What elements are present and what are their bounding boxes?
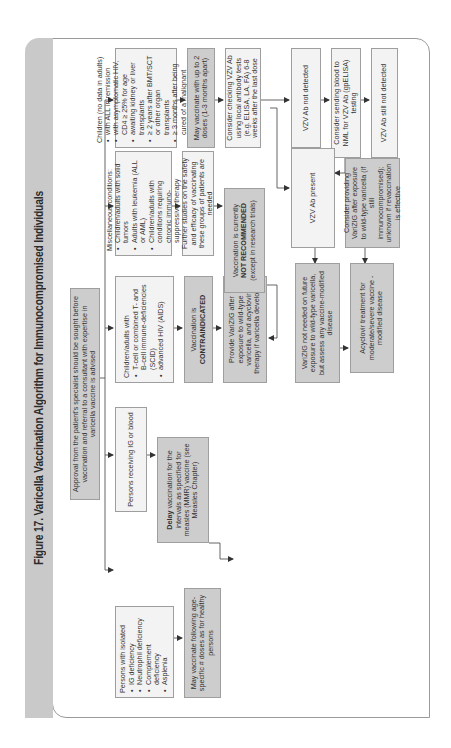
further-studies-text: Further studies on the safety and effica… xyxy=(181,156,215,251)
isolated-deficiency-box: Persons with isolated IG deficiency Neut… xyxy=(115,606,174,698)
bullet-after-bmt: ≥ 2 years after BMT/SCT or other organ t… xyxy=(146,53,171,135)
bullet-adult-leukemia: Adults with leukemia (ALL or AML) xyxy=(131,156,148,243)
consider-varizig-text: Consider providing VariZIG after exposur… xyxy=(343,163,402,243)
receiving-ig-blood-box: Persons receiving IG or blood xyxy=(115,407,147,512)
further-studies-box: Further studies on the safety and effica… xyxy=(182,151,214,256)
vzv-not-detected-box: VZV Ab not detected xyxy=(291,48,321,148)
vzv-still-not-detected-text: VZV Ab still not detected xyxy=(380,64,388,142)
may-vaccinate-two-doses-box: May vaccinate with up to 2 doses (1-3 mo… xyxy=(187,48,215,148)
bullet-solid-tumors: Children/adults with solid tumors xyxy=(114,156,131,243)
send-nml-text: Consider sending blood to NML for VZV Ab… xyxy=(333,53,358,153)
send-nml-box: Consider sending blood to NML for VZV Ab… xyxy=(331,48,361,158)
bullet-scid: T-cell or combined T- and B-cell immune-… xyxy=(132,281,157,370)
vzv-not-detected-text: VZV Ab not detected xyxy=(302,65,310,131)
root-approval-text: Approval from the patient's specialist s… xyxy=(72,293,97,495)
provide-varizig-text: Provide VariZIG after exposure to wild-t… xyxy=(228,281,262,378)
consider-checking-vzv-box: Consider checking VZV Ab using local ant… xyxy=(225,48,261,148)
flowchart-canvas: Figure 17. Varicella Vaccination Algorit… xyxy=(25,38,430,718)
bullet-complement-deficiency: Complement deficiency xyxy=(145,611,162,685)
receiving-ig-blood-text: Persons receiving IG or blood xyxy=(127,412,135,507)
title-strip: Figure 17. Varicella Vaccination Algorit… xyxy=(25,38,53,718)
bullet-immunosuppressive: Children/adults with conditions requirin… xyxy=(148,156,182,243)
not-recommended-suffix: (except in research trials) xyxy=(249,200,257,281)
consider-checking-vzv-text: Consider checking VZV Ab using local ant… xyxy=(226,53,260,143)
contraindicated-bold: CONTRAINDICATED xyxy=(198,295,207,364)
misc-conditions-box: Miscellaneous conditions: Children/adult… xyxy=(115,151,172,256)
consider-varizig-box: Consider providing VariZIG after exposur… xyxy=(345,158,400,248)
contraindicated-text: Vaccination is CONTRAINDICATED xyxy=(190,281,207,378)
may-vaccinate-healthy-text: May vaccinate following age-specific # d… xyxy=(190,593,215,693)
varizig-not-needed-text: VariZIG not needed on future exposure to… xyxy=(301,268,335,378)
vzv-present-text: VZV Ab present xyxy=(309,173,317,223)
vzv-still-not-detected-box: VZV Ab still not detected xyxy=(371,48,398,158)
acyclovir-treatment-text: Acyclovir treatment for moderate/severe … xyxy=(359,268,384,368)
children-no-adult-data-box: Children (no data in adults) with ALL in… xyxy=(115,48,177,148)
acyclovir-treatment-box: Acyclovir treatment for moderate/severe … xyxy=(350,263,394,373)
not-recommended-box: Vaccination is currently NOT RECOMMENDED… xyxy=(224,188,265,293)
varizig-not-needed-box: VariZIG not needed on future exposure to… xyxy=(295,263,340,383)
bullet-asymptomatic-hiv: with asymptomatic HIV, CD4 ≥ 25% for age xyxy=(112,53,129,135)
bullet-asplenia: Asplenia xyxy=(161,611,169,685)
figure-title: Figure 17. Varicella Vaccination Algorit… xyxy=(25,99,53,657)
root-approval-box: Approval from the patient's specialist s… xyxy=(70,288,100,500)
delay-vaccination-text: Delay vaccination for the intervals as s… xyxy=(166,442,200,538)
bullet-aids: advanced HIV (AIDS) xyxy=(157,281,165,370)
contraindicated-box: Vaccination is CONTRAINDICATED xyxy=(184,276,213,383)
bullet-awaiting-transplant: awaiting kidney or liver transplants xyxy=(129,53,146,135)
may-vaccinate-healthy-box: May vaccinate following age-specific # d… xyxy=(184,588,221,698)
tcell-hiv-box: Children/adults with T-cell or combined … xyxy=(115,276,174,383)
vzv-present-box: VZV Ab present xyxy=(291,148,335,248)
may-vaccinate-two-doses-text: May vaccinate with up to 2 doses (1-3 mo… xyxy=(193,53,210,143)
delay-vaccination-box: Delay vaccination for the intervals as s… xyxy=(157,437,209,543)
